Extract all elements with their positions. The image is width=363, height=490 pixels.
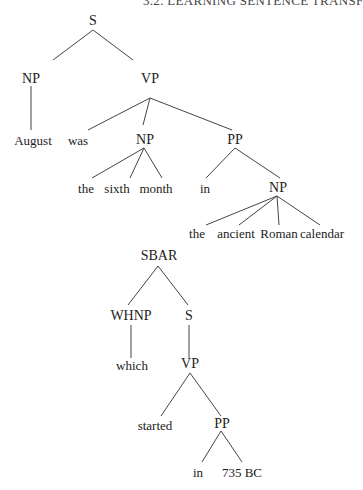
- node-sbar: SBAR: [141, 249, 178, 263]
- leaf-in: in: [200, 182, 210, 195]
- node-s-2: S: [185, 309, 193, 323]
- leaf-sixth: sixth: [104, 182, 129, 195]
- leaf-roman: Roman: [260, 227, 298, 240]
- leaf-in-2: in: [193, 466, 203, 479]
- node-np: NP: [22, 72, 40, 86]
- tree-edges: [0, 0, 363, 490]
- leaf-was: was: [68, 134, 88, 147]
- leaf-which: which: [116, 359, 148, 372]
- leaf-ancient: ancient: [217, 227, 255, 240]
- leaf-started: started: [138, 419, 173, 432]
- node-np-calendar: NP: [269, 181, 287, 195]
- node-vp-2: VP: [181, 357, 199, 371]
- node-whnp: WHNP: [110, 309, 151, 323]
- leaf-the-2: the: [189, 227, 205, 240]
- leaf-august: August: [14, 134, 52, 147]
- node-s: S: [89, 14, 97, 28]
- leaf-the: the: [78, 182, 94, 195]
- node-np-object: NP: [136, 133, 154, 147]
- leaf-735-bc: 735 BC: [222, 466, 262, 479]
- node-pp-2: PP: [214, 417, 230, 431]
- node-pp: PP: [227, 133, 243, 147]
- leaf-month: month: [139, 182, 172, 195]
- node-vp: VP: [141, 72, 159, 86]
- leaf-calendar: calendar: [300, 227, 344, 240]
